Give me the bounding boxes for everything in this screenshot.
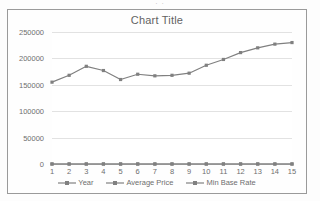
chart-title: Chart Title <box>8 14 306 26</box>
legend-marker-icon <box>186 179 204 187</box>
data-point-marker <box>290 41 293 44</box>
data-point-marker <box>222 58 225 61</box>
legend-label: Average Price <box>126 178 173 187</box>
data-point-marker <box>239 51 242 54</box>
x-tick-label: 9 <box>187 167 191 176</box>
x-tick-label: 10 <box>202 167 210 176</box>
x-tick-label: 12 <box>236 167 244 176</box>
data-point-marker <box>50 81 53 84</box>
x-tick-label: 15 <box>288 167 296 176</box>
data-point-marker <box>222 162 225 165</box>
data-series-layer <box>52 32 292 164</box>
x-tick-label: 11 <box>220 167 228 176</box>
data-point-marker <box>50 162 53 165</box>
data-point-marker <box>188 162 191 165</box>
x-tick-label: 8 <box>170 167 174 176</box>
y-tick-label: 0 <box>0 160 44 169</box>
legend-marker-icon <box>58 179 76 187</box>
legend-item-year[interactable]: Year <box>58 178 93 187</box>
data-point-marker <box>205 64 208 67</box>
cropped-text-row: · · <box>0 0 320 7</box>
x-tick-label: 14 <box>271 167 279 176</box>
y-tick-label: 200000 <box>0 54 44 63</box>
data-point-marker <box>153 162 156 165</box>
chart-screenshot: · · Chart Title 050000100000150000200000… <box>0 0 320 201</box>
x-tick-label: 1 <box>50 167 54 176</box>
data-point-marker <box>273 43 276 46</box>
y-tick-label: 100000 <box>0 107 44 116</box>
x-tick-label: 3 <box>84 167 88 176</box>
data-point-marker <box>256 162 259 165</box>
legend-label: Min Base Rate <box>206 178 255 187</box>
x-tick-label: 5 <box>118 167 122 176</box>
data-point-marker <box>205 162 208 165</box>
x-tick-label: 7 <box>153 167 157 176</box>
data-point-marker <box>102 162 105 165</box>
data-point-marker <box>68 162 71 165</box>
y-tick-label: 50000 <box>0 133 44 142</box>
data-point-marker <box>273 162 276 165</box>
data-point-marker <box>85 162 88 165</box>
chart-legend: YearAverage PriceMin Base Rate <box>8 178 306 187</box>
chart-frame: Chart Title 0500001000001500002000002500… <box>7 9 307 194</box>
data-point-marker <box>170 162 173 165</box>
legend-marker-icon <box>106 179 124 187</box>
data-point-marker <box>188 72 191 75</box>
legend-item-average-price[interactable]: Average Price <box>106 178 173 187</box>
data-point-marker <box>153 74 156 77</box>
data-point-marker <box>170 74 173 77</box>
data-point-marker <box>136 73 139 76</box>
data-point-marker <box>119 78 122 81</box>
y-tick-label: 250000 <box>0 28 44 37</box>
data-point-marker <box>136 162 139 165</box>
legend-label: Year <box>78 178 93 187</box>
data-point-marker <box>102 69 105 72</box>
data-point-marker <box>290 162 293 165</box>
x-tick-label: 13 <box>254 167 262 176</box>
y-tick-label: 150000 <box>0 80 44 89</box>
data-point-marker <box>119 162 122 165</box>
legend-item-min-base-rate[interactable]: Min Base Rate <box>186 178 255 187</box>
x-tick-label: 6 <box>136 167 140 176</box>
data-point-marker <box>68 74 71 77</box>
x-tick-label: 2 <box>67 167 71 176</box>
data-point-marker <box>256 46 259 49</box>
x-tick-label: 4 <box>101 167 105 176</box>
data-point-marker <box>85 65 88 68</box>
data-point-marker <box>239 162 242 165</box>
